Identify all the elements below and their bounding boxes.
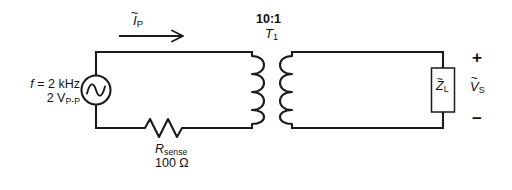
transformer-secondary-winding — [280, 52, 292, 128]
primary-current-label: ~IP — [133, 14, 143, 29]
transformer-designator-subscript: 1 — [273, 32, 278, 42]
load-subscript: L — [444, 84, 449, 94]
frequency-symbol: f — [30, 77, 33, 91]
primary-source-bottom-stub — [96, 105, 140, 128]
source-amplitude-label: 2 VP-P — [22, 92, 80, 106]
transformer-primary-winding — [252, 52, 264, 128]
sense-resistor-name: Rsense — [155, 143, 189, 157]
secondary-top-wire — [292, 52, 443, 68]
output-polarity-plus: + — [472, 49, 482, 67]
transformer-designator-label: T1 — [265, 27, 278, 41]
output-polarity-minus: − — [472, 110, 482, 128]
source-label-group: f = 2 kHz 2 VP-P — [22, 78, 80, 105]
resistor-subscript: sense — [164, 147, 187, 157]
circuit-diagram: f = 2 kHz 2 VP-P ~IP 10:1 T1 Rsense 100 … — [0, 0, 512, 190]
sense-resistor-symbol — [140, 119, 186, 137]
amplitude-value: 2 V — [47, 91, 66, 105]
secondary-bottom-wire — [292, 112, 443, 128]
load-phasor-symbol: ~Z — [436, 80, 444, 94]
sense-resistor-value: 100 Ω — [155, 157, 189, 171]
voltage-phasor-symbol: ~V — [470, 80, 479, 94]
resistor-symbol: R — [155, 142, 164, 156]
source-frequency-label: f = 2 kHz — [22, 78, 80, 92]
load-impedance-label: ~ZL — [436, 80, 449, 94]
primary-top-wire — [96, 52, 252, 75]
transformer-turns-ratio-label: 10:1 — [256, 13, 281, 27]
frequency-value: = 2 kHz — [37, 77, 80, 91]
voltage-subscript: S — [479, 85, 485, 95]
load-tilde: ~ — [436, 74, 443, 86]
sense-resistor-label-group: Rsense 100 Ω — [155, 143, 189, 170]
output-voltage-label: ~VS — [470, 80, 485, 94]
current-subscript: P — [137, 18, 143, 29]
voltage-tilde: ~ — [471, 73, 478, 85]
transformer-designator-symbol: T — [265, 26, 273, 41]
amplitude-subscript: P-P — [65, 96, 80, 106]
